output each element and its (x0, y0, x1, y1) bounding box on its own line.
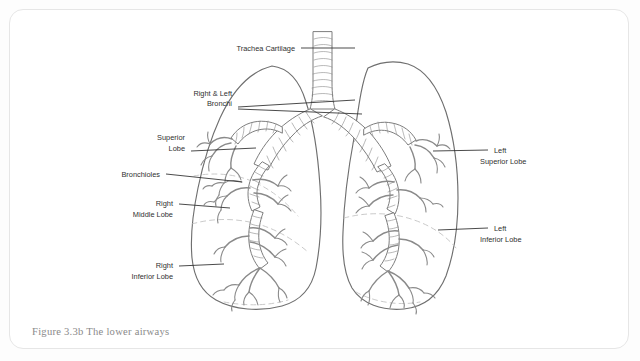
label-left-inferior-lobe-line2: Inferior Lobe (480, 235, 522, 244)
label-superior-lobe-line1: Superior (157, 133, 185, 142)
label-trachea-cartilage: Trachea Cartilage (237, 44, 295, 53)
label-right-middle-lobe-line1: Right (156, 199, 173, 208)
label-right-and-left-bronchi-line2: Bronchi (207, 99, 232, 108)
left-lung-outline (343, 62, 458, 309)
label-right-middle-lobe-line2: Middle Lobe (133, 210, 173, 219)
label-left-inferior-lobe-line1: Left (494, 224, 506, 233)
label-right-inferior-lobe-line2: Inferior Lobe (132, 272, 174, 281)
lower-airways-diagram: Trachea Cartilage Right & Left Bronchi S… (10, 10, 629, 349)
label-right-and-left-bronchi-line1: Right & Left (193, 89, 232, 98)
label-left-superior-lobe-line2: Superior Lobe (480, 157, 526, 166)
screenshot-root: Trachea Cartilage Right & Left Bronchi S… (0, 0, 640, 361)
label-right-inferior-lobe-line1: Right (156, 261, 173, 270)
label-left-superior-lobe-line1: Left (494, 146, 506, 155)
figure-caption: Figure 3.3b The lower airways (32, 326, 169, 337)
label-superior-lobe-line2: Lobe (169, 144, 185, 153)
label-bronchioles: Bronchioles (121, 170, 160, 179)
figure-card: Trachea Cartilage Right & Left Bronchi S… (9, 9, 629, 349)
trachea (310, 32, 335, 109)
